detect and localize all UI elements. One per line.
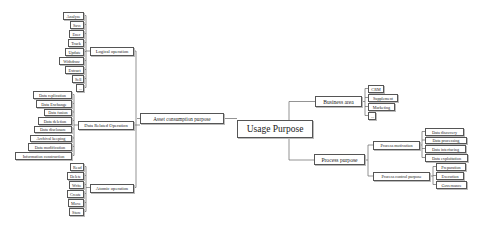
node-process-purpose: Process purpose bbox=[314, 154, 365, 165]
leaf-delete: Delete bbox=[67, 172, 84, 180]
mind-map-diagram: Usage Purpose Asset consumption purpose … bbox=[0, 0, 482, 225]
root-node-usage-purpose: Usage Purpose bbox=[237, 120, 313, 138]
leaf-execution: Execution bbox=[436, 172, 464, 180]
leaf-move: Move bbox=[68, 199, 84, 207]
node-business-area: Business area bbox=[315, 96, 362, 107]
leaf-data-disclosure: Data disclosure bbox=[34, 126, 72, 134]
node-data-related-operation: Data Related Operation bbox=[78, 121, 134, 130]
leaf-data-discovery: Data discovery bbox=[425, 128, 464, 136]
leaf-ellipsis-business: ... bbox=[368, 112, 376, 120]
leaf-governance: Governance bbox=[436, 181, 467, 189]
leaf-data-exchange: Data Exchange bbox=[36, 100, 72, 108]
node-process-motivation: Process motivation bbox=[373, 141, 420, 150]
leaf-data-processing: Data processing bbox=[425, 137, 467, 145]
leaf-archival-keeping: Archival keeping bbox=[30, 135, 72, 143]
leaf-analyze: Analyze bbox=[63, 12, 84, 20]
node-process-control-purpose: Process control purpose bbox=[373, 172, 430, 181]
leaf-supplement: Supplement bbox=[368, 94, 398, 102]
leaf-ellipsis: ... bbox=[76, 84, 84, 92]
leaf-withdraw: Withdraw bbox=[59, 57, 84, 65]
leaf-data-replication: Data replication bbox=[33, 91, 72, 99]
leaf-store: Store bbox=[69, 208, 84, 216]
leaf-data-deletion: Data deletion bbox=[38, 117, 72, 125]
leaf-track: Track bbox=[68, 39, 84, 47]
leaf-read: Read bbox=[70, 163, 84, 171]
leaf-data-exploitation: Data exploitation bbox=[425, 154, 468, 162]
leaf-create: Create bbox=[67, 190, 84, 198]
leaf-data-fusion: Data fusion bbox=[44, 109, 72, 117]
leaf-data-modification: Data modification bbox=[28, 143, 72, 151]
node-asset-consumption-purpose: Asset consumption purpose bbox=[140, 113, 224, 124]
leaf-update: Update bbox=[65, 48, 84, 56]
leaf-save: Save bbox=[70, 21, 84, 29]
leaf-data-interfacing: Data interfacing bbox=[425, 145, 466, 153]
leaf-marketing: Marketing bbox=[368, 103, 395, 111]
leaf-preparation: Preparation bbox=[436, 163, 466, 171]
leaf-write: Write bbox=[69, 181, 84, 189]
leaf-extract: Extract bbox=[65, 66, 84, 74]
node-logical-operation: Logical operation bbox=[90, 47, 134, 56]
node-atomic-operation: Atomic operation bbox=[90, 184, 134, 193]
leaf-crm: CRM bbox=[368, 85, 384, 93]
leaf-ener: Ener bbox=[69, 30, 84, 38]
leaf-information-construction: Information construction bbox=[15, 152, 72, 160]
leaf-sell: Sell bbox=[72, 75, 84, 83]
